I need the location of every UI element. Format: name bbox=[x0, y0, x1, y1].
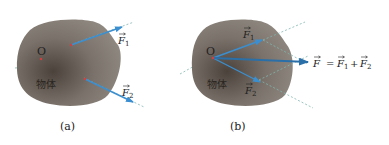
svg-text:1: 1 bbox=[344, 63, 348, 71]
panel-b: O 物体 F 1 F 2 F = F 1 + F 2 bbox=[180, 20, 371, 133]
point-o-label: O bbox=[37, 45, 46, 58]
point-o-label: O bbox=[206, 45, 215, 58]
svg-text:2: 2 bbox=[252, 90, 256, 98]
force-diagram: O 物体 F 1 F 2 (a) O 物体 bbox=[0, 0, 389, 145]
application-point-f2 bbox=[84, 78, 86, 80]
svg-text:2: 2 bbox=[129, 92, 133, 100]
svg-text:+: + bbox=[350, 58, 358, 69]
force-label-f1: F 1 bbox=[117, 33, 129, 48]
resultant-equation: F = F 1 + F 2 bbox=[312, 56, 371, 71]
panel-a: O 物体 F 1 F 2 (a) bbox=[15, 20, 144, 133]
svg-text:=: = bbox=[326, 58, 334, 69]
svg-text:2: 2 bbox=[367, 63, 371, 71]
caption-b: (b) bbox=[230, 120, 246, 133]
application-point-f1 bbox=[70, 44, 72, 46]
object-label: 物体 bbox=[207, 78, 227, 90]
svg-text:F: F bbox=[312, 58, 321, 69]
object-label: 物体 bbox=[36, 78, 56, 90]
force-label-f2: F 2 bbox=[121, 85, 133, 100]
point-o-mark bbox=[40, 58, 42, 60]
svg-text:1: 1 bbox=[250, 34, 254, 42]
caption-a: (a) bbox=[60, 120, 75, 133]
svg-text:1: 1 bbox=[125, 40, 129, 48]
